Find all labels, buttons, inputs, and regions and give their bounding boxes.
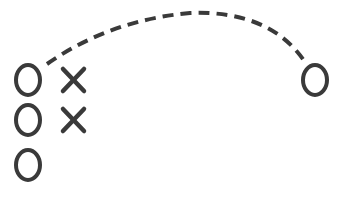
x-marker-1 — [63, 69, 84, 91]
x-marker-2 — [63, 109, 84, 131]
o-marker-2 — [16, 105, 40, 135]
o-marker-1 — [16, 65, 40, 95]
o-marker-4 — [303, 65, 327, 95]
play-diagram-canvas — [0, 0, 342, 199]
o-marker-3 — [16, 150, 40, 180]
dashed-pass-arc — [47, 13, 305, 64]
